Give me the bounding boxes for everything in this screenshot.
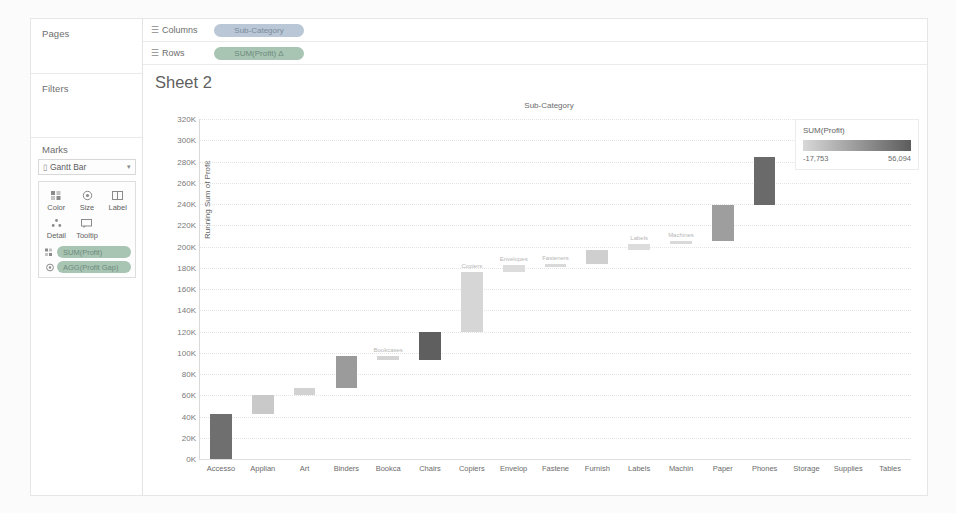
- gridline: [200, 268, 911, 269]
- marks-empty-slot: [102, 215, 133, 243]
- gridline: [200, 183, 911, 184]
- marks-pill-color[interactable]: SUM(Profit): [44, 246, 131, 258]
- pill-sub-category[interactable]: Sub-Category: [214, 24, 304, 37]
- pages-shelf[interactable]: Pages: [31, 19, 142, 74]
- rows-shelf[interactable]: ☰ Rows SUM(Profit) Δ: [143, 42, 927, 65]
- bar-mark[interactable]: [252, 395, 274, 414]
- worksheet-frame: Pages Filters Marks ▯ Gantt Bar ▾: [30, 18, 928, 496]
- gridline: [200, 374, 911, 375]
- x-axis-tick[interactable]: Supplies: [834, 464, 863, 473]
- color-legend[interactable]: SUM(Profit) -17,753 56,094: [795, 119, 919, 170]
- y-axis-tick: 140K: [177, 306, 196, 315]
- pages-label: Pages: [42, 28, 133, 39]
- legend-min: -17,753: [803, 154, 828, 163]
- y-axis-tick: 40K: [182, 412, 196, 421]
- pill-sum-profit[interactable]: SUM(Profit) Δ: [214, 47, 304, 60]
- bar-mark[interactable]: [754, 157, 776, 204]
- bar-mark[interactable]: [294, 388, 316, 395]
- x-axis-tick[interactable]: Phones: [752, 464, 777, 473]
- x-axis-tick[interactable]: Envelop: [500, 464, 527, 473]
- y-axis-tick: 20K: [182, 433, 196, 442]
- y-axis-tick: 280K: [177, 157, 196, 166]
- label-button[interactable]: Label: [102, 187, 133, 215]
- x-axis-tick[interactable]: Binders: [334, 464, 359, 473]
- filters-shelf[interactable]: Filters: [31, 74, 142, 138]
- worksheet-view: Sheet 2 Sub-Category Running Sum of Prof…: [143, 65, 927, 495]
- mark-label: Labels: [630, 235, 648, 241]
- waterfall-chart: Running Sum of Profit 0K20K40K60K80K100K…: [143, 115, 917, 495]
- shelf-area: ☰ Columns Sub-Category ☰ Rows SUM(Profit…: [143, 19, 927, 65]
- x-axis-tick[interactable]: Copiers: [459, 464, 485, 473]
- y-axis-tick: 80K: [182, 370, 196, 379]
- bar-mark[interactable]: [336, 356, 358, 388]
- gridline: [200, 225, 911, 226]
- page-title: Sheet 2: [155, 73, 212, 92]
- bar-mark[interactable]: [210, 414, 232, 459]
- x-axis-tick[interactable]: Applian: [250, 464, 275, 473]
- legend-color-ramp: [803, 140, 911, 151]
- bar-mark[interactable]: [545, 264, 567, 267]
- label-icon: [110, 189, 125, 202]
- plot-area[interactable]: Running Sum of Profit 0K20K40K60K80K100K…: [199, 119, 911, 460]
- bar-mark[interactable]: [628, 244, 650, 250]
- size-button[interactable]: Size: [72, 187, 103, 215]
- x-axis-tick[interactable]: Tables: [879, 464, 901, 473]
- x-axis-tick[interactable]: Labels: [628, 464, 650, 473]
- gridline: [200, 417, 911, 418]
- mark-label: Machines: [668, 232, 694, 238]
- x-axis-tick[interactable]: Paper: [713, 464, 733, 473]
- y-axis-tick: 200K: [177, 242, 196, 251]
- marks-pill-size-label: AGG(Profit Gap): [57, 261, 131, 273]
- x-axis-tick[interactable]: Chairs: [419, 464, 441, 473]
- legend-title: SUM(Profit): [803, 126, 911, 135]
- bar-mark[interactable]: [419, 332, 441, 360]
- mark-type-value: Gantt Bar: [50, 162, 127, 172]
- mark-label: Fasteners: [542, 255, 569, 261]
- marks-button-row-2: Detail Tooltip: [41, 215, 133, 243]
- gridline: [200, 353, 911, 354]
- gridline: [200, 204, 911, 205]
- bar-mark[interactable]: [670, 241, 692, 245]
- columns-shelf-label: Columns: [162, 25, 214, 35]
- marks-pill-size[interactable]: AGG(Profit Gap): [44, 261, 131, 273]
- y-axis-title: Running Sum of Profit: [203, 161, 212, 239]
- gridline: [200, 332, 911, 333]
- gridline: [200, 459, 911, 460]
- tooltip-icon: [79, 217, 94, 230]
- color-icon: [49, 189, 64, 202]
- bar-mark[interactable]: [712, 205, 734, 241]
- mark-type-selector[interactable]: ▯ Gantt Bar ▾: [38, 159, 136, 175]
- tooltip-button[interactable]: Tooltip: [72, 215, 103, 243]
- detail-button[interactable]: Detail: [41, 215, 72, 243]
- x-axis-tick[interactable]: Accesso: [207, 464, 235, 473]
- marks-pill-color-label: SUM(Profit): [57, 246, 131, 258]
- marks-button-row-1: Color Size: [41, 187, 133, 215]
- filters-label: Filters: [42, 83, 133, 94]
- left-control-panel: Pages Filters Marks ▯ Gantt Bar ▾: [31, 19, 143, 495]
- mark-label: Bookcases: [374, 347, 403, 353]
- gantt-bar-icon: ▯: [43, 163, 47, 172]
- y-axis-tick: 100K: [177, 348, 196, 357]
- size-encoding-icon: [44, 262, 57, 273]
- x-axis-tick[interactable]: Machin: [669, 464, 693, 473]
- y-axis-tick: 260K: [177, 178, 196, 187]
- bar-mark[interactable]: [377, 356, 399, 360]
- columns-shelf[interactable]: ☰ Columns Sub-Category: [143, 19, 927, 42]
- x-axis-tick[interactable]: Fastene: [542, 464, 569, 473]
- color-button-label: Color: [47, 203, 65, 212]
- gridline: [200, 247, 911, 248]
- x-axis-tick[interactable]: Storage: [793, 464, 819, 473]
- gridline: [200, 395, 911, 396]
- marks-buttons-box: Color Size: [38, 181, 136, 278]
- y-axis-tick: 0K: [186, 455, 196, 464]
- bar-mark[interactable]: [586, 250, 608, 264]
- x-axis-tick[interactable]: Bookca: [376, 464, 401, 473]
- y-axis-tick: 60K: [182, 391, 196, 400]
- color-button[interactable]: Color: [41, 187, 72, 215]
- bar-mark[interactable]: [461, 272, 483, 331]
- legend-scale: -17,753 56,094: [803, 154, 911, 163]
- size-button-label: Size: [80, 203, 95, 212]
- x-axis-tick[interactable]: Furnish: [585, 464, 610, 473]
- bar-mark[interactable]: [503, 265, 525, 272]
- x-axis-tick[interactable]: Art: [300, 464, 310, 473]
